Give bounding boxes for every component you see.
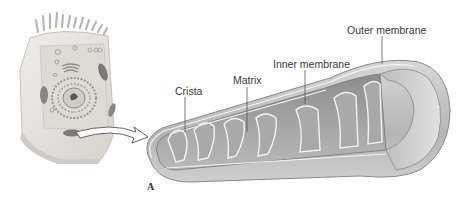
panel-letter: A [147,181,154,192]
mitochondrion-illustration [147,60,450,182]
cell-illustration [20,13,148,164]
outer-membrane-label: Outer membrane [347,24,426,36]
microvilli [36,13,107,34]
crista-label: Crista [175,85,202,97]
inner-membrane-label: Inner membrane [273,58,350,70]
matrix-label: Matrix [233,74,262,86]
mitochondrion-diagram: Outer membrane Inner membrane Matrix Cri… [0,0,457,202]
cell-mitochondrion [40,86,48,104]
